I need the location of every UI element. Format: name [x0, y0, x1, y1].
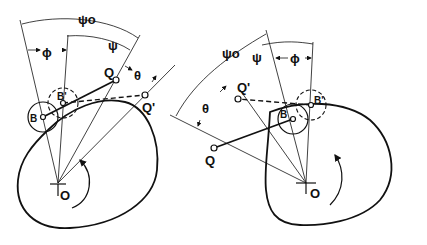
- right-rotation-arrow: [330, 155, 342, 205]
- right-label-B-prime: B': [314, 95, 324, 106]
- left-ref-line-psi0: [20, 20, 58, 183]
- right-label-Q-prime: Q': [237, 80, 250, 95]
- left-ref-line-psi: [58, 35, 140, 183]
- right-pivot-Q: [211, 145, 217, 151]
- left-label-Q: Q: [104, 65, 114, 80]
- right-ref-line-psi0: [170, 115, 306, 183]
- left-pivot-Q-prime: [142, 92, 148, 98]
- right-label-phi: ϕ: [290, 51, 300, 66]
- left-label-psi0: ψo: [78, 12, 96, 27]
- left-rotation-arrow: [72, 160, 89, 208]
- left-label-O: O: [60, 188, 70, 203]
- right-label-psi0: ψo: [222, 46, 240, 61]
- right-label-B: B: [280, 109, 287, 120]
- left-label-B: B: [30, 113, 37, 124]
- left-diagram: ψo ϕ ψ θ Q Q' B B' O: [18, 12, 175, 228]
- cam-follower-figure: ψo ϕ ψ θ Q Q' B B' O ψo ψ ϕ θ: [0, 0, 427, 245]
- right-ref-line-psi: [266, 30, 306, 183]
- right-label-theta: θ: [202, 101, 209, 116]
- left-label-B-prime: B': [57, 91, 67, 102]
- right-psi0-arc: [176, 34, 266, 116]
- left-psi-arc: [67, 36, 130, 50]
- left-follower-arm-displaced: [63, 95, 145, 103]
- right-follower-arm: [214, 119, 293, 148]
- right-label-O: O: [310, 186, 320, 201]
- left-label-theta: θ: [134, 68, 141, 83]
- right-label-Q: Q: [205, 153, 215, 168]
- left-label-phi: ϕ: [42, 45, 52, 60]
- left-label-psi: ψ: [108, 38, 118, 53]
- right-pivot-Q-prime: [235, 96, 241, 102]
- left-label-Q-prime: Q': [142, 100, 155, 115]
- right-diagram: ψo ψ ϕ θ Q Q' B B' O: [170, 30, 391, 225]
- right-label-psi: ψ: [252, 50, 262, 65]
- left-cam-profile: [18, 100, 158, 228]
